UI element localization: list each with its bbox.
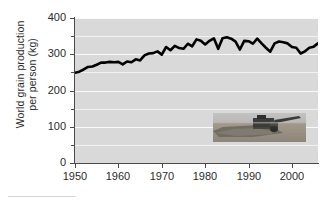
combine-harvester-image bbox=[213, 113, 306, 142]
y-tick-150 bbox=[71, 109, 74, 110]
y-axis-line bbox=[74, 17, 75, 164]
y-tick-label-200: 200 bbox=[26, 84, 66, 96]
y-tick-label-0: 0 bbox=[26, 156, 66, 168]
y-tick-300 bbox=[70, 54, 74, 55]
x-tick-label-1950: 1950 bbox=[55, 170, 95, 182]
y-tick-350 bbox=[71, 36, 74, 37]
combine-harvester-photo bbox=[213, 113, 306, 142]
y-axis-title-text: World grain production per person (kg) bbox=[14, 21, 38, 129]
y-tick-250 bbox=[71, 72, 74, 73]
x-tick-label-2000: 2000 bbox=[272, 170, 312, 182]
x-tick-1960 bbox=[118, 164, 119, 168]
x-tick-1950 bbox=[75, 164, 76, 168]
y-tick-label-400: 400 bbox=[26, 11, 66, 23]
x-tick-2000 bbox=[292, 164, 293, 168]
caption-rule bbox=[8, 196, 76, 197]
x-tick-label-1980: 1980 bbox=[185, 170, 225, 182]
plot-area bbox=[75, 18, 318, 163]
x-tick-label-1960: 1960 bbox=[98, 170, 138, 182]
x-tick-label-1990: 1990 bbox=[229, 170, 269, 182]
y-tick-label-100: 100 bbox=[26, 120, 66, 132]
x-tick-label-1970: 1970 bbox=[142, 170, 182, 182]
y-tick-200 bbox=[70, 91, 74, 92]
y-tick-400 bbox=[70, 18, 74, 19]
y-tick-50 bbox=[71, 145, 74, 146]
x-tick-1980 bbox=[205, 164, 206, 168]
x-axis-line bbox=[74, 163, 319, 164]
y-tick-100 bbox=[70, 127, 74, 128]
x-tick-1970 bbox=[162, 164, 163, 168]
x-tick-1990 bbox=[249, 164, 250, 168]
chart-figure: World grain production per person (kg) bbox=[0, 0, 333, 205]
y-tick-0 bbox=[70, 163, 74, 164]
y-tick-label-300: 300 bbox=[26, 47, 66, 59]
